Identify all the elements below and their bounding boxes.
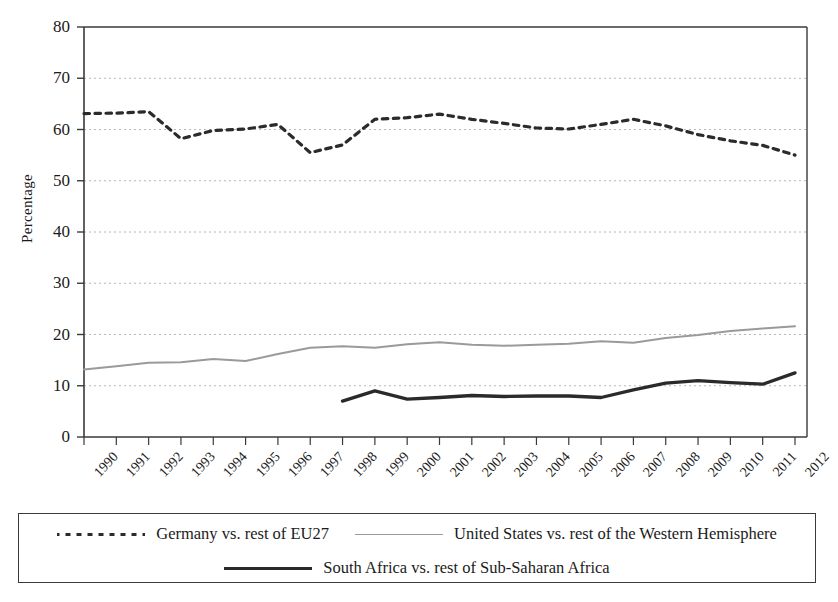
series-line-1	[84, 326, 795, 369]
legend-label: South Africa vs. rest of Sub-Saharan Afr…	[323, 558, 609, 578]
legend-swatch-black	[224, 567, 312, 570]
legend-label: United States vs. rest of the Western He…	[454, 524, 777, 544]
legend-row: South Africa vs. rest of Sub-Saharan Afr…	[19, 551, 815, 585]
legend-row: Germany vs. rest of EU27United States vs…	[19, 514, 815, 551]
legend-label: Germany vs. rest of EU27	[156, 524, 329, 544]
legend-swatch-dotted	[57, 533, 145, 536]
legend-item[interactable]: South Africa vs. rest of Sub-Saharan Afr…	[224, 558, 609, 578]
chart-figure: Percentage 01020304050607080 19901991199…	[0, 0, 838, 602]
legend-item[interactable]: United States vs. rest of the Western He…	[355, 524, 777, 544]
chart-legend: Germany vs. rest of EU27United States vs…	[18, 513, 816, 583]
series-line-2	[343, 373, 796, 401]
series-line-0	[84, 112, 795, 156]
legend-swatch-gray	[355, 534, 443, 535]
chart-canvas	[0, 0, 838, 505]
chart-plot-area: Percentage 01020304050607080 19901991199…	[0, 0, 838, 505]
legend-item[interactable]: Germany vs. rest of EU27	[57, 524, 329, 544]
